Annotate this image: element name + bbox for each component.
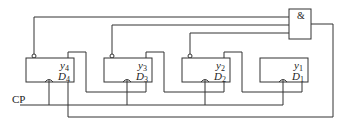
and-gate: & bbox=[289, 9, 311, 39]
and-gate-label: & bbox=[297, 10, 305, 21]
circuit-diagram: & y4 D4 y3 D3 y2 D2 y1 D1 CP bbox=[0, 0, 348, 131]
ff4-input-label: D bbox=[57, 70, 66, 82]
clock-label: CP bbox=[12, 93, 25, 105]
wire-ff4-inverted-to-and bbox=[34, 17, 289, 54]
flip-flop-1: y1 D1 bbox=[260, 58, 308, 84]
flip-flop-2: y2 D2 bbox=[182, 58, 230, 84]
ff3-input-label: D bbox=[135, 70, 144, 82]
ff1-input-label: D bbox=[291, 70, 300, 82]
inverted-output-bubble-ff3 bbox=[110, 54, 114, 58]
inverted-output-bubble-ff4 bbox=[32, 54, 36, 58]
ff2-input-label: D bbox=[213, 70, 222, 82]
flip-flop-4: y4 D4 bbox=[26, 58, 74, 84]
wire-ff2-inverted-to-and bbox=[190, 33, 289, 54]
flip-flop-3: y3 D3 bbox=[104, 58, 152, 84]
wire-ff3-inverted-to-and bbox=[112, 25, 289, 54]
inverted-output-bubble-ff2 bbox=[188, 54, 192, 58]
